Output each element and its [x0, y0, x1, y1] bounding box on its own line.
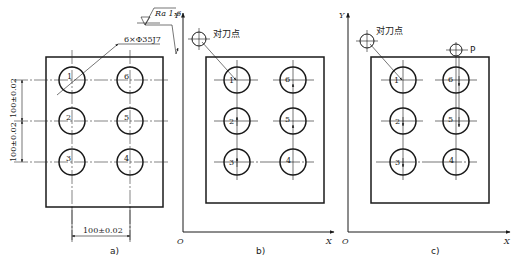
hole-label-5: 5 [285, 115, 290, 124]
caption-b: b) [256, 246, 265, 256]
x-axis-label: X [325, 237, 332, 246]
hole-spec-label: 6×Φ35J7 [124, 35, 161, 44]
hole-label-6: 6 [448, 75, 453, 84]
hole-label-5: 5 [448, 115, 453, 124]
workpiece-outline [46, 57, 163, 207]
dim-vertical-upper-label: 100±0.02 [9, 78, 18, 118]
point-p-label: P [470, 45, 476, 55]
hole-label-5: 5 [124, 113, 129, 122]
caption-a: a) [110, 246, 119, 256]
hole-label-1: 1 [394, 76, 399, 85]
panel-a: 1 2 3 4 5 6 6×Φ35J7 Ra 1.6 100±0.02 100±… [9, 8, 181, 256]
dim-horizontal-label: 100±0.02 [83, 226, 123, 235]
workpiece-outline [371, 57, 489, 203]
path-tool-to-1 [202, 42, 236, 80]
hole-label-6: 6 [285, 75, 290, 84]
y-axis-label: Y [339, 11, 345, 20]
hole-label-1: 1 [67, 72, 72, 81]
hole-label-3: 3 [229, 158, 234, 167]
hole-label-4: 4 [449, 156, 454, 165]
hole-label-2: 2 [66, 113, 71, 122]
hole-label-3: 3 [395, 158, 400, 167]
hole-label-4: 4 [286, 156, 291, 165]
y-axis-label: Y [174, 11, 180, 20]
tool-set-point-label: 对刀点 [376, 25, 403, 36]
path-tool-to-1 [370, 44, 402, 80]
hole-machining-figure: 1 2 3 4 5 6 6×Φ35J7 Ra 1.6 100±0.02 100±… [0, 0, 516, 264]
hole-label-6: 6 [124, 72, 129, 81]
hole-label-4: 4 [124, 154, 129, 163]
hole-label-2: 2 [395, 117, 400, 126]
diameter-leader [57, 44, 118, 95]
panel-b: Y X O 1 2 3 4 5 6 对刀点 b) [174, 11, 334, 256]
origin-label: O [177, 237, 184, 246]
tool-set-point-label: 对刀点 [213, 28, 240, 39]
caption-c: c) [431, 246, 439, 256]
dim-vertical-lower-label: 100±0.02 [9, 122, 18, 162]
origin-label: O [342, 237, 349, 246]
hole-label-3: 3 [66, 154, 71, 163]
panel-c: Y X O 1 2 3 4 5 6 对刀点 [339, 11, 510, 256]
hole-label-2: 2 [229, 117, 234, 126]
x-axis-label: X [503, 237, 510, 246]
